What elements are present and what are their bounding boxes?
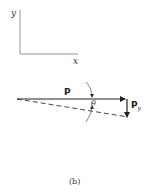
vector-p: P bbox=[17, 87, 125, 99]
dashed-line bbox=[17, 99, 128, 117]
angle-arc-top bbox=[86, 82, 92, 97]
vector-py: Py bbox=[127, 99, 142, 117]
vector-py-label: Py bbox=[131, 100, 142, 112]
angle-theta: θ bbox=[86, 82, 96, 122]
vector-diagram: y x P Py θ (b) bbox=[0, 0, 148, 194]
angle-theta-label: θ bbox=[91, 99, 96, 108]
figure-caption: (b) bbox=[69, 177, 80, 186]
angle-arc-bottom bbox=[86, 106, 92, 122]
x-axis-label: x bbox=[73, 56, 78, 66]
coordinate-axes: y x bbox=[10, 8, 78, 66]
vector-p-label: P bbox=[64, 87, 71, 97]
y-axis-label: y bbox=[10, 8, 17, 18]
